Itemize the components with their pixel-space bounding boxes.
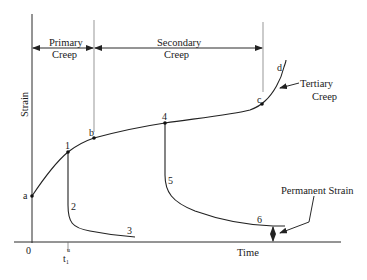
point-c-label: c: [257, 94, 262, 105]
creep-curve: [32, 60, 286, 196]
point-2-label: 2: [71, 201, 76, 212]
tertiary-creep-label-2: Creep: [312, 91, 337, 102]
point-d-label: d: [277, 62, 282, 73]
tertiary-creep-leader: [280, 83, 299, 88]
point-a-label: a: [23, 190, 28, 201]
point-3-label: 3: [127, 225, 132, 236]
point-4-label: 4: [162, 111, 167, 122]
permanent-strain-label: Permanent Strain: [281, 185, 354, 196]
point-1-label: 1: [65, 140, 70, 151]
permanent-strain-leader: [280, 196, 314, 233]
point-a-marker: [30, 194, 34, 198]
secondary-creep-label-1: Secondary: [157, 37, 202, 48]
primary-creep-label-1: Primary: [49, 37, 84, 48]
origin-label: 0: [26, 245, 31, 256]
y-axis-label: Strain: [19, 91, 30, 117]
point-6-label: 6: [257, 214, 262, 225]
t1-label-sup: u: [67, 247, 70, 253]
secondary-creep-label-2: Creep: [164, 49, 189, 60]
tertiary-creep-label-1: Tertiary: [300, 78, 334, 89]
creep-curve-diagram: Strain Time 0 t₁ u Primary Creep Seconda…: [0, 0, 367, 280]
t1-label: t₁: [63, 253, 69, 264]
point-5-label: 5: [168, 175, 173, 186]
primary-creep-label-2: Creep: [52, 49, 77, 60]
x-axis-label: Time: [237, 247, 259, 258]
point-b-label: b: [89, 127, 94, 138]
recovery-curve-2: [165, 123, 285, 226]
recovery-curve-1: [68, 152, 135, 237]
